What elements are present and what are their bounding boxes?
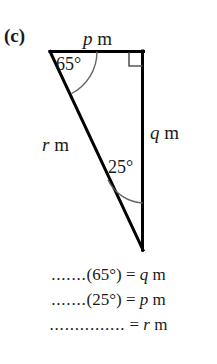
answer-line[interactable]: ............... = r m (0, 312, 217, 337)
answer-line-unit: m (150, 315, 167, 334)
answer-line-expression: = (130, 315, 144, 334)
side-label-p-variable: p (83, 28, 93, 49)
answer-blank-dots[interactable]: ....... (51, 290, 86, 309)
side-label-p: p m (83, 29, 112, 48)
answer-line-variable: r (143, 315, 150, 334)
side-label-q-unit: m (164, 122, 179, 143)
answer-blank-dots[interactable]: ....... (51, 265, 86, 284)
answer-line-expression: (65°) = (87, 265, 140, 284)
angle-label-25: 25° (108, 158, 133, 176)
answer-lines-group: .......(65°) = q m .......(25°) = p m ..… (0, 262, 217, 337)
right-angle-marker (129, 53, 143, 67)
answer-blank-dots[interactable]: ............... (50, 315, 126, 334)
answer-line-unit: m (148, 290, 165, 309)
side-label-r: r m (42, 135, 69, 154)
answer-line[interactable]: .......(25°) = p m (0, 287, 217, 312)
angle-label-65: 65° (56, 55, 81, 73)
side-label-p-unit: m (97, 28, 112, 49)
figure-container: (c) 65° 25° p m q m r m .......(65°) = q… (0, 0, 217, 364)
side-label-q: q m (150, 123, 179, 142)
answer-line-expression: (25°) = (87, 290, 140, 309)
side-label-r-unit: m (54, 134, 69, 155)
side-label-q-variable: q (150, 122, 160, 143)
answer-line[interactable]: .......(65°) = q m (0, 262, 217, 287)
answer-line-unit: m (148, 265, 165, 284)
